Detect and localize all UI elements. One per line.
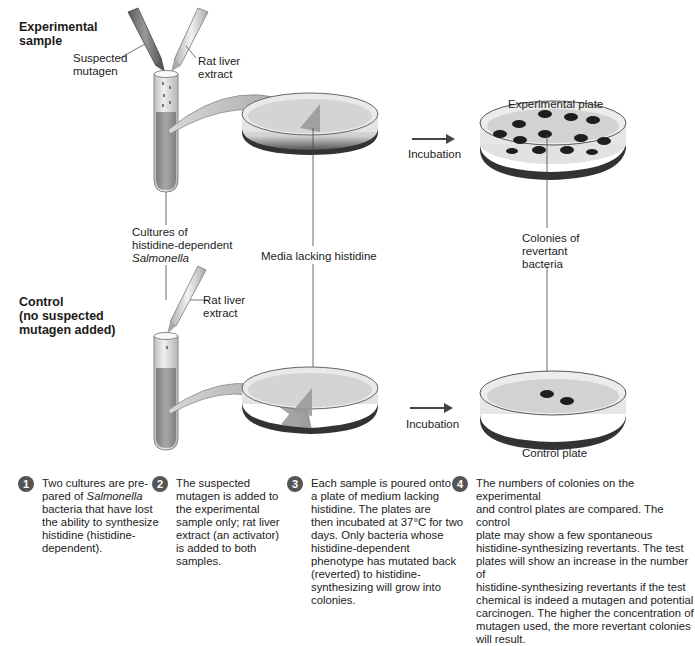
label-line: Colonies of bbox=[522, 232, 580, 245]
control-title: Control (no suspected mutagen added) bbox=[19, 295, 116, 337]
mutagen-pipette-icon bbox=[128, 8, 165, 72]
step-line: is added to both bbox=[176, 542, 280, 555]
control-plate-label: Control plate bbox=[522, 447, 587, 460]
label-line: extract bbox=[198, 68, 240, 81]
experimental-sample-title: Experimental sample bbox=[19, 20, 98, 48]
control-plate-icon bbox=[480, 371, 626, 450]
step-line: a plate of medium lacking bbox=[311, 490, 463, 503]
step-line: Two cultures are pre- bbox=[42, 477, 159, 490]
step-line: histidine-synthesizing revertants if the… bbox=[476, 581, 695, 594]
title-line: Control bbox=[19, 295, 116, 309]
step-line: synthesizing will grow into bbox=[311, 581, 463, 594]
label-line: Suspected bbox=[73, 52, 127, 65]
incubation-arrow-control-icon bbox=[410, 403, 453, 413]
cultures-label: Cultures of histidine-dependent Salmonel… bbox=[132, 226, 232, 265]
media-lacking-histidine-label: Media lacking histidine bbox=[261, 250, 377, 263]
step-line: sample only; rat liver bbox=[176, 516, 280, 529]
suspected-mutagen-label: Suspected mutagen bbox=[73, 52, 127, 78]
step-line: histidine. The plates are bbox=[311, 503, 463, 516]
step-line: chemical is indeed a mutagen and potenti… bbox=[476, 594, 695, 607]
title-line: mutagen added) bbox=[19, 323, 116, 337]
incubation-label-control: Incubation bbox=[406, 418, 459, 431]
step-line: histidine-dependent bbox=[311, 542, 463, 555]
step-line: mutagen used, the more revertant colonie… bbox=[476, 620, 695, 633]
step-number-badge: 3 bbox=[287, 476, 303, 492]
rat-liver-extract-label-control: Rat liver extract bbox=[203, 294, 245, 320]
step-text: Each sample is poured onto a plate of me… bbox=[311, 477, 463, 607]
organism-name: Salmonella bbox=[87, 490, 143, 502]
step-line: histidine (histidine- bbox=[42, 529, 159, 542]
control-test-tube-icon bbox=[154, 333, 178, 451]
step-line: mutagen is added to bbox=[176, 490, 280, 503]
title-line: (no suspected bbox=[19, 309, 116, 323]
step-line: phenotype has mutated back bbox=[311, 555, 463, 568]
step-number-badge: 2 bbox=[152, 476, 168, 492]
label-line: histidine-dependent bbox=[132, 239, 232, 252]
rat-liver-extract-label-experimental: Rat liver extract bbox=[198, 55, 240, 81]
step-line: the ability to synthesize bbox=[42, 516, 159, 529]
organism-name: Salmonella bbox=[132, 252, 189, 264]
step-text: The numbers of colonies on the experimen… bbox=[476, 477, 695, 646]
label-line: Rat liver bbox=[198, 55, 240, 68]
step-text: The suspected mutagen is added to the ex… bbox=[176, 477, 280, 568]
step-line: bacteria that have lost bbox=[42, 503, 159, 516]
title-line: sample bbox=[19, 34, 98, 48]
step-line: extract (an activator) bbox=[176, 529, 280, 542]
experimental-plate-label: Experimental plate bbox=[508, 98, 603, 111]
step-line: will result. bbox=[476, 633, 695, 646]
step-line: (reverted) to histidine- bbox=[311, 568, 463, 581]
incubation-arrow-experimental-icon bbox=[412, 134, 455, 144]
title-line: Experimental bbox=[19, 20, 98, 34]
step-line: pared of bbox=[42, 490, 87, 502]
step-line: The suspected bbox=[176, 477, 280, 490]
label-line: revertant bbox=[522, 245, 580, 258]
step-number-badge: 1 bbox=[18, 476, 34, 492]
step-line: and control plates are compared. The con… bbox=[476, 503, 695, 529]
step-line: plate may show a few spontaneous bbox=[476, 529, 695, 542]
step-line: then incubated at 37°C for two bbox=[311, 516, 463, 529]
label-line: mutagen bbox=[73, 65, 127, 78]
label-line: extract bbox=[203, 307, 245, 320]
label-line: Rat liver bbox=[203, 294, 245, 307]
step-line: colonies. bbox=[311, 594, 463, 607]
step-line: The numbers of colonies on the experimen… bbox=[476, 477, 695, 503]
step-number-badge: 4 bbox=[452, 476, 468, 492]
incubation-label-experimental: Incubation bbox=[408, 148, 461, 161]
step-line: carcinogen. The higher the concentration… bbox=[476, 607, 695, 620]
step-line: Each sample is poured onto bbox=[311, 477, 463, 490]
step-line: the experimental bbox=[176, 503, 280, 516]
colonies-of-revertant-bacteria-label: Colonies of revertant bacteria bbox=[522, 232, 580, 271]
step-line: histidine-synthesizing revertants. The t… bbox=[476, 542, 695, 555]
step-line: plates will show an increase in the numb… bbox=[476, 555, 695, 581]
step-line: samples. bbox=[176, 555, 280, 568]
step-text: Two cultures are pre- pared of Salmonell… bbox=[42, 477, 159, 555]
step-line: days. Only bacteria whose bbox=[311, 529, 463, 542]
step-line: dependent). bbox=[42, 542, 159, 555]
label-line: Cultures of bbox=[132, 226, 232, 239]
label-line: bacteria bbox=[522, 258, 580, 271]
